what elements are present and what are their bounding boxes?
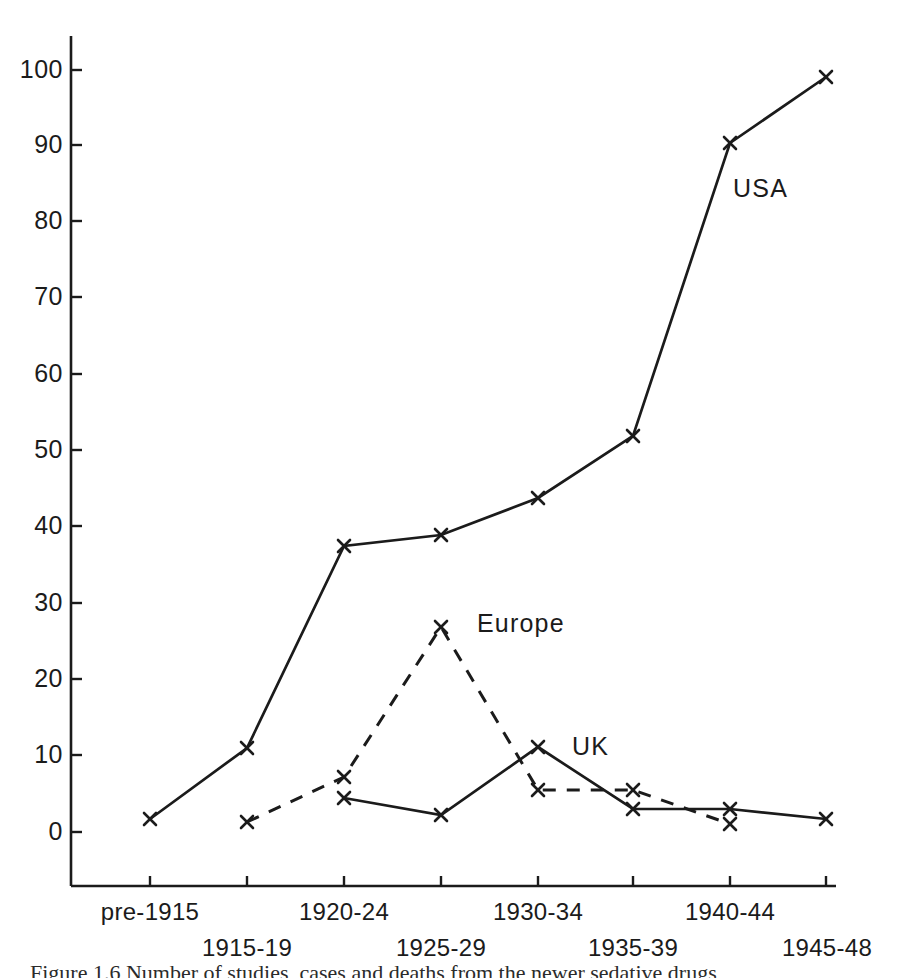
x-tick-label-pre-1915: pre-1915 bbox=[80, 898, 220, 926]
marker-x-icon bbox=[724, 818, 736, 830]
marker-x-icon bbox=[241, 816, 253, 828]
marker-x-icon bbox=[532, 784, 544, 796]
marker-x-icon bbox=[241, 742, 253, 754]
marker-x-icon bbox=[532, 492, 544, 504]
y-tick-label-90: 90 bbox=[0, 130, 63, 159]
x-tick-label-1920-24: 1920-24 bbox=[277, 898, 411, 926]
marker-x-icon bbox=[144, 813, 156, 825]
x-axis-ticks bbox=[150, 876, 826, 886]
marker-x-icon bbox=[820, 71, 832, 83]
marker-x-icon bbox=[627, 784, 639, 796]
x-tick-label-1930-34: 1930-34 bbox=[471, 898, 605, 926]
figure-caption: Figure 1.6 Number of studies, cases and … bbox=[30, 960, 890, 978]
series-markers-usa bbox=[144, 71, 832, 825]
y-tick-label-60: 60 bbox=[0, 359, 63, 388]
axis-lines bbox=[71, 36, 836, 886]
x-tick-label-1935-39: 1935-39 bbox=[566, 934, 700, 962]
y-tick-label-0: 0 bbox=[0, 817, 63, 846]
marker-x-icon bbox=[532, 741, 544, 753]
x-tick-label-1940-44: 1940-44 bbox=[663, 898, 797, 926]
series-annotation-uk: UK bbox=[572, 732, 609, 761]
line-chart-plot bbox=[0, 0, 903, 978]
figure-container: 100 90 80 70 60 50 40 30 20 10 0 pre-191… bbox=[0, 0, 903, 978]
series-line-usa bbox=[150, 77, 826, 819]
marker-x-icon bbox=[338, 771, 350, 783]
y-tick-label-30: 30 bbox=[0, 588, 63, 617]
y-tick-label-50: 50 bbox=[0, 435, 63, 464]
x-tick-label-1925-29: 1925-29 bbox=[374, 934, 508, 962]
x-tick-label-1915-19: 1915-19 bbox=[180, 934, 314, 962]
y-tick-label-40: 40 bbox=[0, 511, 63, 540]
series-annotation-europe: Europe bbox=[477, 609, 565, 638]
series-annotation-usa: USA bbox=[733, 174, 788, 203]
series-line-europe bbox=[247, 627, 730, 824]
y-tick-label-10: 10 bbox=[0, 740, 63, 769]
y-tick-label-70: 70 bbox=[0, 282, 63, 311]
y-axis-ticks bbox=[71, 70, 82, 832]
y-tick-label-80: 80 bbox=[0, 206, 63, 235]
y-tick-label-100: 100 bbox=[0, 55, 63, 84]
y-tick-label-20: 20 bbox=[0, 664, 63, 693]
x-tick-label-1945-48: 1945-48 bbox=[760, 934, 894, 962]
marker-x-icon bbox=[435, 621, 447, 633]
